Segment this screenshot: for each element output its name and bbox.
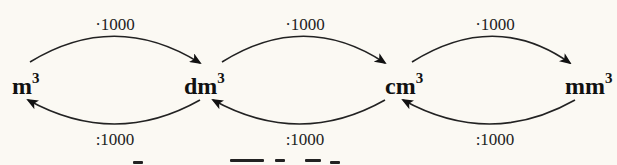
unit-mm3: mm3 xyxy=(565,66,612,100)
unit-base: cm xyxy=(385,73,416,99)
factor-divide-1: :1000 xyxy=(96,130,135,150)
unit-base: dm xyxy=(184,73,217,99)
cropped-text-fragment xyxy=(0,157,617,165)
unit-exponent: 3 xyxy=(605,70,613,86)
unit-exponent: 3 xyxy=(416,70,424,86)
arrow-cm3-to-dm3 xyxy=(213,100,385,124)
unit-exponent: 3 xyxy=(217,70,225,86)
unit-base: mm xyxy=(565,73,605,99)
unit-dm3: dm3 xyxy=(184,66,225,100)
arrow-m3-to-dm3 xyxy=(30,36,200,63)
arrow-cm3-to-mm3 xyxy=(412,36,570,63)
factor-multiply-1: ·1000 xyxy=(95,15,135,35)
unit-cm3: cm3 xyxy=(385,66,423,100)
unit-base: m xyxy=(12,73,32,99)
arrow-dm3-to-cm3 xyxy=(222,36,385,63)
arrow-mm3-to-cm3 xyxy=(403,100,575,124)
factor-multiply-2: ·1000 xyxy=(285,15,325,35)
factor-divide-3: :1000 xyxy=(476,130,515,150)
factor-multiply-3: ·1000 xyxy=(475,15,515,35)
unit-exponent: 3 xyxy=(32,70,40,86)
factor-divide-2: :1000 xyxy=(286,130,325,150)
unit-m3: m3 xyxy=(12,66,40,100)
arrow-dm3-to-m3 xyxy=(28,100,200,124)
